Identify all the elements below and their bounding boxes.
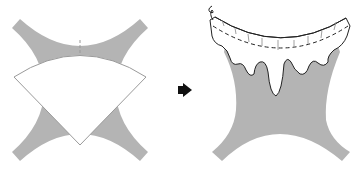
- sewing-diagram: Collar piece positioned on fabric Collar…: [0, 0, 364, 176]
- arrow-right-icon: [178, 83, 192, 97]
- step-2-figure: [209, 6, 350, 161]
- thread-tail-icon: [209, 6, 213, 20]
- step-1-figure: [12, 19, 148, 161]
